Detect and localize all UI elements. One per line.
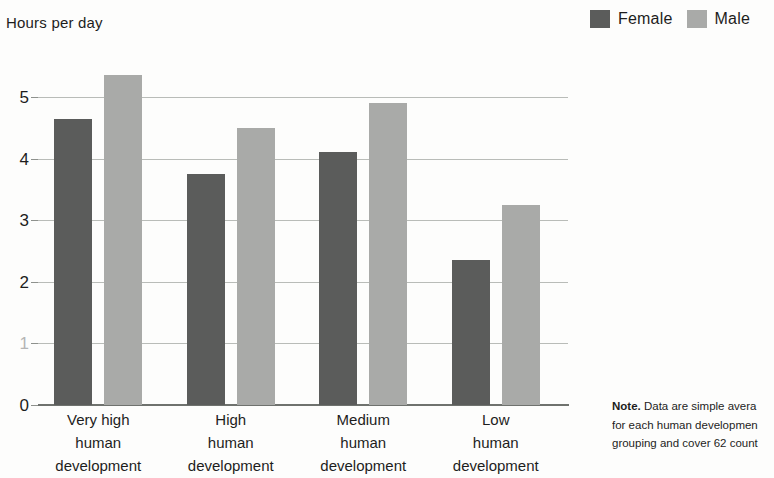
legend-label-male: Male: [715, 10, 750, 28]
y-tick-mark-0: [31, 405, 38, 406]
note-line-2: for each human developmen: [612, 416, 774, 435]
x-axis-label-line: development: [167, 455, 295, 478]
x-axis-category-label-4: Lowhumandevelopment: [432, 409, 560, 477]
y-axis-title: Hours per day: [6, 14, 103, 31]
x-axis-label-line: Medium: [299, 409, 427, 432]
x-axis-category-label-3: Mediumhumandevelopment: [299, 409, 427, 477]
x-axis-label-line: Low: [432, 409, 560, 432]
x-axis-label-line: Very high: [34, 409, 162, 432]
bar-male-group-2: [237, 128, 275, 405]
x-axis-label-line: human: [167, 432, 295, 455]
y-tick-label-1: 1: [20, 335, 29, 352]
y-tick-mark-5: [31, 97, 38, 98]
note-line-1-text: Data are simple avera: [644, 400, 757, 412]
bar-female-group-2: [187, 174, 225, 405]
x-axis-label-line: human: [34, 432, 162, 455]
plot-area: 012345: [38, 60, 568, 405]
legend-label-female: Female: [618, 10, 673, 28]
y-tick-mark-4: [31, 159, 38, 160]
x-axis-category-label-1: Very highhumandevelopment: [34, 409, 162, 477]
bar-female-group-1: [54, 119, 92, 405]
x-axis-category-label-2: Highhumandevelopment: [167, 409, 295, 477]
y-tick-label-4: 4: [20, 150, 29, 167]
y-tick-label-3: 3: [20, 212, 29, 229]
x-axis-label-line: High: [167, 409, 295, 432]
x-axis-label-line: development: [299, 455, 427, 478]
x-axis-label-line: development: [34, 455, 162, 478]
legend-item-male: Male: [687, 10, 750, 28]
legend-swatch-female-icon: [590, 10, 610, 28]
note-line-3: grouping and cover 62 count: [612, 434, 774, 453]
legend-item-female: Female: [590, 10, 673, 28]
bar-male-group-1: [104, 75, 142, 405]
legend-swatch-male-icon: [687, 10, 707, 28]
bar-female-group-4: [452, 260, 490, 405]
y-tick-label-0: 0: [20, 397, 29, 414]
y-tick-mark-1: [31, 343, 38, 344]
bar-male-group-4: [502, 205, 540, 405]
note-line-1: Note. Data are simple avera: [612, 397, 774, 416]
x-axis-label-line: human: [432, 432, 560, 455]
bar-male-group-3: [369, 103, 407, 405]
chart-figure: Hours per day Female Male 012345 Very hi…: [0, 0, 774, 478]
y-tick-mark-3: [31, 220, 38, 221]
chart-note: Note. Data are simple avera for each hum…: [612, 397, 774, 453]
x-axis-category-labels: Very highhumandevelopmentHighhumandevelo…: [38, 409, 568, 478]
bar-female-group-3: [319, 152, 357, 405]
y-tick-mark-2: [31, 282, 38, 283]
x-axis-label-line: development: [432, 455, 560, 478]
y-tick-label-2: 2: [20, 273, 29, 290]
chart-legend: Female Male: [590, 10, 750, 28]
note-prefix: Note.: [612, 400, 641, 412]
y-tick-label-5: 5: [20, 88, 29, 105]
x-axis-label-line: human: [299, 432, 427, 455]
